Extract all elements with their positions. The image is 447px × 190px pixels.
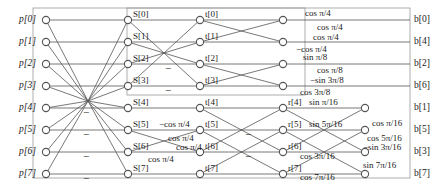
coef-sin-pi-16: sin π/16	[309, 98, 338, 107]
coef-cos-3pi-8: cos 3π/8	[300, 88, 330, 97]
node-r-7[interactable]	[279, 170, 286, 177]
input-label-6: p[6]	[19, 147, 36, 157]
coef-cos-3pi-16: cos 3π/16	[300, 152, 335, 161]
coef-cos-pi-4-s2c: cos π/4	[176, 143, 202, 152]
node-p-6[interactable]	[42, 148, 49, 155]
node-p-3[interactable]	[42, 82, 49, 89]
stage1-label-1: S[1]	[133, 32, 149, 41]
node-r-0[interactable]	[279, 16, 286, 23]
stage2-label-1: t[1]	[205, 32, 218, 41]
coef-neg-cos-pi-4-s2: −cos π/4	[159, 120, 190, 129]
node-b-7[interactable]	[361, 170, 368, 177]
coef-cos-7pi-16: cos 7π/16	[300, 173, 335, 182]
coef-cos-pi-4-b: cos π/4	[317, 23, 343, 32]
input-label-0: p[0]	[19, 15, 36, 25]
stage3-label-2: r[6]	[288, 142, 302, 151]
input-label-1: p[1]	[19, 37, 36, 47]
node-r-5[interactable]	[279, 126, 286, 133]
node-p-5[interactable]	[42, 126, 49, 133]
node-S-7[interactable]	[124, 170, 131, 177]
input-label-5: p[5]	[19, 125, 36, 135]
output-label-6: b[3]	[414, 147, 430, 157]
stage2-label-6: t[6]	[205, 142, 218, 151]
stage1-label-0: S[0]	[133, 10, 149, 19]
node-S-6[interactable]	[124, 148, 131, 155]
input-label-7: p[7]	[19, 169, 36, 179]
coef-neg-sin-3pi-16: −sin 3π/16	[363, 143, 401, 152]
coef-cos-pi-8: cos π/8	[317, 66, 343, 75]
edge-p6-b	[88, 42, 128, 101]
node-S-2[interactable]	[124, 60, 131, 67]
stage1-label-6: S[6]	[133, 142, 149, 151]
coef-cos-pi-4-s2d: cos π/4	[148, 155, 174, 164]
stage3-label-0: r[4]	[288, 98, 302, 107]
node-S-3[interactable]	[124, 82, 131, 89]
stage2-label-5: t[5]	[205, 120, 218, 129]
output-label-0: b[0]	[414, 15, 430, 25]
stage1-label-4: S[4]	[133, 98, 149, 107]
node-r-2[interactable]	[279, 60, 286, 67]
edge-p1-a	[46, 42, 88, 101]
coef-sin-pi-8: sin π/8	[303, 53, 327, 62]
node-t-2[interactable]	[196, 60, 203, 67]
node-t-4[interactable]	[196, 104, 203, 111]
node-S-4[interactable]	[124, 104, 131, 111]
node-t-7[interactable]	[196, 170, 203, 177]
edge-p0-a	[46, 20, 88, 101]
minus-stage1-row7: −	[83, 151, 89, 162]
minus-stage3-row7: −	[245, 151, 251, 162]
stage2-label-3: t[3]	[205, 76, 218, 85]
node-p-1[interactable]	[42, 38, 49, 45]
node-r-3[interactable]	[279, 82, 286, 89]
node-t-0[interactable]	[196, 16, 203, 23]
minus-stage1-row6: −	[83, 129, 89, 140]
stage2-label-2: t[2]	[205, 54, 218, 63]
stage1-label-7: S[7]	[133, 164, 149, 173]
edge-p7-b	[88, 20, 128, 101]
edge-p5-a	[46, 101, 88, 130]
coef-sin-7pi-16: sin 7π/16	[363, 161, 396, 170]
stage2-label-0: t[0]	[205, 10, 218, 19]
stage2-label-4: t[4]	[205, 98, 218, 107]
stage1-label-5: S[5]	[133, 120, 149, 129]
stage2-label-7: t[7]	[205, 164, 218, 173]
minus-stage2-row4: −	[165, 85, 171, 96]
output-label-7: b[7]	[414, 169, 430, 179]
node-r-6[interactable]	[279, 148, 286, 155]
coef-cos-pi-4-a: cos π/4	[305, 9, 331, 18]
node-p-2[interactable]	[42, 60, 49, 67]
edge-p2-b	[88, 101, 128, 130]
node-r-4[interactable]	[279, 104, 286, 111]
node-p-7[interactable]	[42, 170, 49, 177]
node-S-5[interactable]	[124, 126, 131, 133]
minus-stage2-row3: −	[165, 63, 171, 74]
node-p-0[interactable]	[42, 16, 49, 23]
coef-sin-5pi-16: sin 5π/16	[309, 120, 342, 129]
node-p-4[interactable]	[42, 104, 49, 111]
node-t-1[interactable]	[196, 38, 203, 45]
edge-p1-b	[88, 101, 128, 152]
input-label-4: p[4]	[19, 103, 36, 113]
edge-p3-b	[88, 101, 128, 108]
group-box-outer	[33, 8, 410, 178]
edge-p7-a	[46, 101, 88, 174]
output-label-1: b[4]	[414, 37, 430, 47]
edge-p6-a	[46, 101, 88, 152]
coef-cos-pi-16: cos π/16	[372, 119, 402, 128]
node-S-0[interactable]	[124, 16, 131, 23]
input-label-2: p[2]	[19, 59, 36, 69]
node-t-3[interactable]	[196, 82, 203, 89]
node-b-4[interactable]	[361, 104, 368, 111]
stage3-label-1: r[5]	[288, 120, 302, 129]
output-label-4: b[1]	[414, 103, 430, 113]
output-label-3: b[6]	[414, 81, 430, 91]
dct-butterfly-diagram: p[0]p[1]p[2]p[3]p[4]p[5]p[6]p[7]b[0]b[4]…	[0, 0, 447, 190]
node-r-1[interactable]	[279, 38, 286, 45]
node-S-1[interactable]	[124, 38, 131, 45]
edge-p5-b	[88, 64, 128, 101]
input-label-3: p[3]	[19, 81, 36, 91]
minus-stage3-row6: −	[245, 129, 251, 140]
node-t-5[interactable]	[196, 126, 203, 133]
output-label-2: b[2]	[414, 59, 430, 69]
minus-stage1-row5: −	[83, 107, 89, 118]
